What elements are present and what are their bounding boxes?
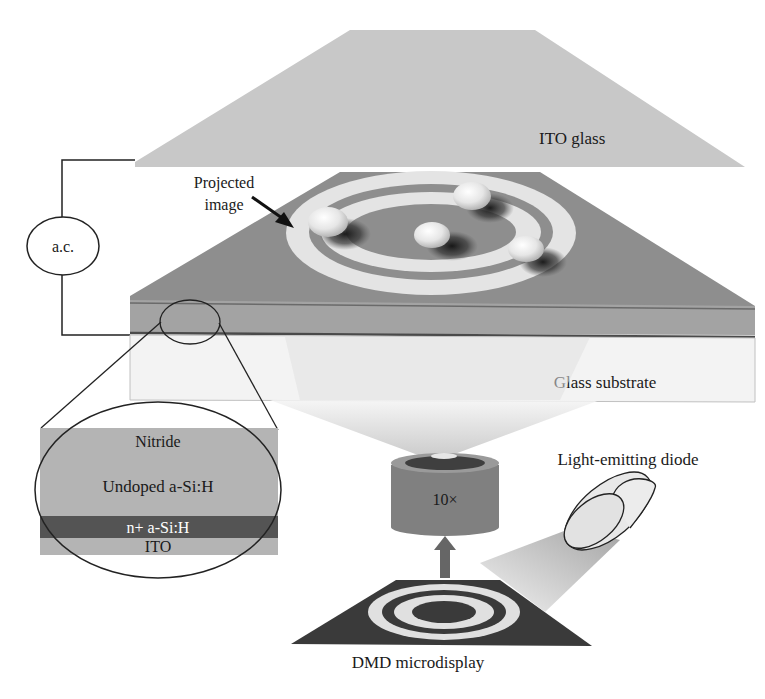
otweezers-diagram: ITO glass a.c. Glass substrate: [0, 0, 765, 699]
ito-glass-plate: ITO glass: [135, 30, 745, 167]
projected-image-annotation: Projected image: [194, 174, 294, 228]
ac-source-label: a.c.: [52, 238, 74, 255]
objective-lens: 10×: [391, 453, 499, 536]
projection-light-cone: [270, 337, 600, 455]
light-emitting-diode: Light-emitting diode: [480, 450, 699, 612]
ito-glass-label: ITO glass: [539, 129, 605, 148]
nitride-label: Nitride: [135, 433, 180, 450]
projected-image-label-line2: image: [204, 196, 243, 214]
led-label: Light-emitting diode: [557, 450, 698, 469]
layer-stack-inset: Nitride Undoped a-Si:H n+ a-Si:H ITO: [35, 402, 281, 578]
up-arrow: [434, 536, 456, 578]
objective-label: 10×: [432, 491, 457, 508]
ac-source: a.c.: [27, 217, 99, 275]
projected-image-label: Projected: [194, 174, 254, 192]
n-plus-asih-label: n+ a-Si:H: [127, 519, 190, 536]
undoped-asih-label: Undoped a-Si:H: [103, 477, 214, 496]
ito-layer-label: ITO: [145, 538, 171, 555]
dmd-label: DMD microdisplay: [352, 653, 485, 672]
